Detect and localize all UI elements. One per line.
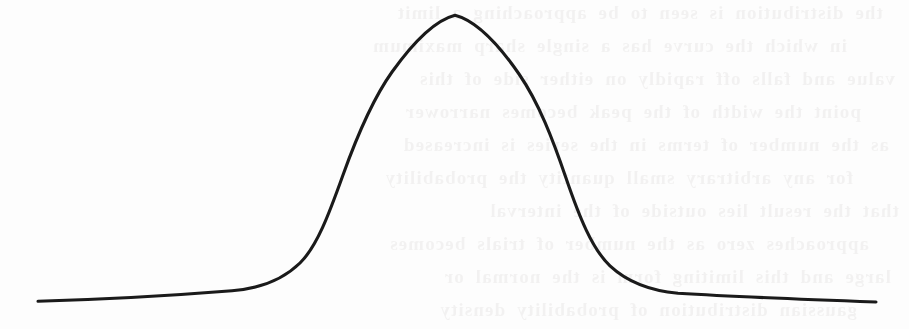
bell-curve-path bbox=[38, 15, 876, 302]
scanned-figure-page: the distribution is seen to be approachi… bbox=[0, 0, 909, 329]
bell-curve-svg bbox=[0, 0, 909, 329]
bell-curve-figure bbox=[0, 0, 909, 329]
